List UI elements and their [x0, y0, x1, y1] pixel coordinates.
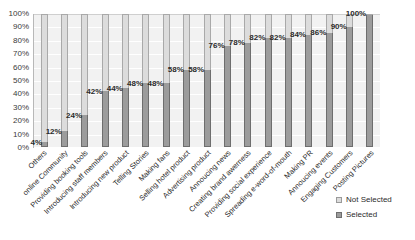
- stacked-bar[interactable]: 24%: [81, 14, 88, 147]
- stacked-bar[interactable]: 12%: [61, 14, 68, 147]
- bar-segment-selected[interactable]: [122, 88, 129, 147]
- bar-segment-not-selected[interactable]: [142, 14, 149, 83]
- legend-swatch-icon: [336, 212, 342, 218]
- legend-item[interactable]: Selected: [336, 211, 415, 219]
- legend-item[interactable]: Not Selected: [336, 196, 415, 204]
- bar-segment-selected[interactable]: [204, 70, 211, 147]
- plot-area: 4%12%24%42%44%48%48%58%58%76%78%82%82%84…: [33, 14, 380, 148]
- bar-segment-selected[interactable]: [102, 91, 109, 147]
- stacked-bar[interactable]: 100%: [366, 14, 373, 147]
- bar-value-label: 78%: [229, 39, 245, 47]
- bar-segment-selected[interactable]: [305, 35, 312, 147]
- stacked-bar[interactable]: 58%: [204, 14, 211, 147]
- bar-segment-selected[interactable]: [81, 115, 88, 147]
- y-axis-tick-label: 50%: [13, 77, 29, 85]
- bar-slot[interactable]: 12%: [54, 14, 74, 147]
- bar-slot[interactable]: 48%: [156, 14, 176, 147]
- y-axis: 100%90%80%70%60%50%40%30%20%10%0%: [0, 14, 31, 148]
- bar-value-label: 90%: [331, 23, 347, 31]
- bar-slot[interactable]: 58%: [177, 14, 197, 147]
- bar-value-label: 82%: [249, 34, 265, 42]
- bar-segment-not-selected[interactable]: [41, 14, 48, 142]
- stacked-bar[interactable]: 86%: [326, 14, 333, 147]
- bar-value-label: 24%: [66, 112, 82, 120]
- legend-label: Selected: [346, 211, 377, 219]
- y-axis-tick-label: 0%: [17, 144, 29, 152]
- y-axis-tick-label: 10%: [13, 131, 29, 139]
- bar-segment-selected[interactable]: [163, 83, 170, 147]
- y-axis-tick-label: 90%: [13, 23, 29, 31]
- bar-value-label: 86%: [310, 29, 326, 37]
- bar-value-label: 58%: [168, 66, 184, 74]
- y-axis-tick-label: 70%: [13, 50, 29, 58]
- stacked-bar[interactable]: 42%: [102, 14, 109, 147]
- bar-value-label: 48%: [127, 80, 143, 88]
- bar-slot[interactable]: 90%: [339, 14, 359, 147]
- bar-segment-selected[interactable]: [61, 131, 68, 147]
- bars-layer: 4%12%24%42%44%48%48%58%58%76%78%82%82%84…: [34, 14, 380, 147]
- bar-value-label: 48%: [147, 80, 163, 88]
- bar-value-label: 76%: [209, 42, 225, 50]
- bar-value-label: 82%: [270, 34, 286, 42]
- bar-value-label: 100%: [346, 10, 366, 18]
- bar-value-label: 58%: [188, 66, 204, 74]
- stacked-bar[interactable]: 90%: [346, 14, 353, 147]
- stacked-bar[interactable]: 76%: [224, 14, 231, 147]
- x-axis: Othersonline CommunityProviding booking …: [33, 149, 380, 240]
- y-axis-tick-label: 30%: [13, 104, 29, 112]
- y-axis-tick-label: 80%: [13, 37, 29, 45]
- bar-segment-selected[interactable]: [366, 15, 373, 147]
- bar-value-label: 44%: [107, 85, 123, 93]
- bar-segment-selected[interactable]: [142, 83, 149, 147]
- bar-segment-selected[interactable]: [265, 38, 272, 147]
- bar-segment-not-selected[interactable]: [122, 14, 129, 88]
- stacked-bar[interactable]: 48%: [163, 14, 170, 147]
- bar-value-label: 4%: [31, 139, 43, 147]
- bar-segment-not-selected[interactable]: [102, 14, 109, 91]
- bar-segment-selected[interactable]: [244, 43, 251, 147]
- chart-legend: Not SelectedSelected: [336, 196, 415, 226]
- bar-segment-selected[interactable]: [285, 38, 292, 147]
- bar-segment-selected[interactable]: [183, 70, 190, 147]
- bar-segment-selected[interactable]: [346, 27, 353, 147]
- bar-segment-selected[interactable]: [224, 46, 231, 147]
- bar-value-label: 42%: [86, 88, 102, 96]
- bar-slot[interactable]: 24%: [75, 14, 95, 147]
- bar-slot[interactable]: 100%: [360, 14, 380, 147]
- y-axis-tick-label: 100%: [9, 10, 29, 18]
- bar-slot[interactable]: 58%: [197, 14, 217, 147]
- legend-swatch-icon: [336, 197, 342, 203]
- bar-value-label: 12%: [46, 128, 62, 136]
- bar-segment-not-selected[interactable]: [81, 14, 88, 115]
- stacked-bar[interactable]: 58%: [183, 14, 190, 147]
- bar-segment-selected[interactable]: [326, 33, 333, 147]
- y-axis-tick-label: 40%: [13, 90, 29, 98]
- bar-slot[interactable]: 42%: [95, 14, 115, 147]
- y-axis-tick-label: 60%: [13, 64, 29, 72]
- legend-label: Not Selected: [346, 196, 392, 204]
- bar-slot[interactable]: 76%: [217, 14, 237, 147]
- bar-segment-not-selected[interactable]: [183, 14, 190, 70]
- bar-slot[interactable]: 86%: [319, 14, 339, 147]
- y-axis-tick-label: 20%: [13, 117, 29, 125]
- stacked-bar-chart: 100%90%80%70%60%50%40%30%20%10%0% 4%12%2…: [0, 0, 415, 240]
- bar-value-label: 84%: [290, 31, 306, 39]
